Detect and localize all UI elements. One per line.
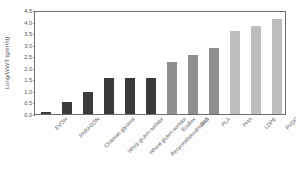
y-tick-label: 0.0 [13,112,32,118]
x-tick-label: PHA [241,116,253,128]
bar [167,62,177,114]
y-tick-label: 1.0 [13,89,32,95]
x-tick-label: PARAGON [77,116,100,139]
bar [104,78,114,114]
bar-chart-figure: Long/WWT (g/m³/d) 0.00.51.01.52.02.53.03… [0,0,296,191]
bar [83,92,93,114]
x-axis-tick-labels: EVOHPARAGONChitosan glycerolWhey gluten-… [34,116,286,190]
bar [251,26,261,114]
bar [125,78,135,114]
x-tick-label: LDPE [263,116,277,130]
bar [230,31,240,114]
y-axis-tick-labels: 0.00.51.01.52.02.53.03.54.04.5 [13,8,32,116]
y-tick-label: 3.5 [13,31,32,37]
y-tick-label: 2.5 [13,54,32,60]
y-axis-title: Long/WWT (g/m³/d) [1,12,13,114]
x-tick-label: PVDC [284,116,296,131]
bar [272,19,282,114]
bar [41,112,51,114]
y-tick-label: 1.5 [13,77,32,83]
y-tick-label: 2.0 [13,66,32,72]
bar [146,78,156,114]
y-tick-label: 0.5 [13,100,32,106]
y-tick-label: 4.0 [13,20,32,26]
bar-series [35,12,285,114]
x-tick-label: EVOH [53,116,68,131]
y-tick-label: 4.5 [13,8,32,14]
y-tick-label: 3.0 [13,43,32,49]
plot-area [34,11,286,115]
x-tick-label: PLA [219,116,230,127]
bar [188,55,198,114]
bar [62,102,72,114]
bar [209,48,219,114]
